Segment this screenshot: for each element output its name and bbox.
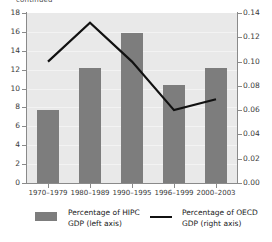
right-axis-tick <box>238 159 242 160</box>
left-axis-tick-label: 12 <box>0 66 20 74</box>
left-axis-tick <box>22 13 26 14</box>
left-axis-tick-label: 8 <box>0 103 20 111</box>
x-axis-tick <box>90 184 91 188</box>
right-axis-tick-label: 0.14 <box>243 9 272 17</box>
right-axis-tick <box>238 37 242 38</box>
right-axis-tick <box>238 86 242 87</box>
bar <box>121 33 143 183</box>
bar <box>205 68 227 183</box>
x-axis-tick <box>48 184 49 188</box>
right-axis-tick-label: 0.06 <box>243 106 272 114</box>
bar <box>37 110 59 183</box>
left-axis-tick <box>22 183 26 184</box>
right-axis-tick-label: 0.12 <box>243 33 272 41</box>
legend-swatch-hipc <box>35 212 57 221</box>
x-axis-tick <box>132 184 133 188</box>
left-axis-tick <box>22 126 26 127</box>
right-axis-tick <box>238 110 242 111</box>
left-axis-tick-label: 4 <box>0 141 20 149</box>
left-axis-tick <box>22 164 26 165</box>
left-axis-tick <box>22 32 26 33</box>
chart-figure: continued 024681012141618 0.000.020.040.… <box>0 0 272 242</box>
left-axis-tick <box>22 145 26 146</box>
right-axis-tick-label: 0.04 <box>243 130 272 138</box>
right-axis-tick <box>238 134 242 135</box>
left-axis-tick-label: 0 <box>0 179 20 187</box>
legend-label-oecd: Percentage of OECD GDP (right axis) <box>182 208 268 229</box>
x-axis-tick-label: 2000–2003 <box>190 189 242 198</box>
left-axis-tick-label: 16 <box>0 28 20 36</box>
left-axis-tick <box>22 70 26 71</box>
left-axis-tick <box>22 51 26 52</box>
right-axis-tick <box>238 183 242 184</box>
left-axis-tick-label: 18 <box>0 9 20 17</box>
right-axis-tick-label: 0.00 <box>243 179 272 187</box>
left-axis-tick-label: 6 <box>0 122 20 130</box>
x-axis-tick <box>174 184 175 188</box>
right-axis-tick-label: 0.02 <box>243 155 272 163</box>
right-axis-tick <box>238 62 242 63</box>
chart-legend: Percentage of HIPC GDP (left axis) Perce… <box>0 206 272 242</box>
legend-label-hipc: Percentage of HIPC GDP (left axis) <box>68 208 148 229</box>
right-axis-tick-label: 0.10 <box>243 58 272 66</box>
bar <box>79 68 101 183</box>
legend-swatch-oecd <box>150 216 172 218</box>
left-axis-tick <box>22 107 26 108</box>
left-axis-tick-label: 14 <box>0 47 20 55</box>
clipped-title: continued <box>16 0 166 4</box>
left-axis-tick-label: 10 <box>0 85 20 93</box>
right-axis-tick <box>238 13 242 14</box>
x-axis-tick <box>216 184 217 188</box>
left-axis-line <box>26 12 27 184</box>
right-axis-tick-label: 0.08 <box>243 82 272 90</box>
left-axis-tick <box>22 89 26 90</box>
left-axis-tick-label: 2 <box>0 160 20 168</box>
bar <box>163 85 185 183</box>
